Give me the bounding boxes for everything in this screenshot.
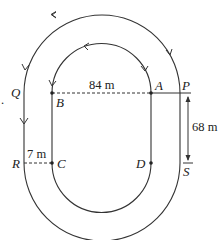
outer-track <box>24 15 180 240</box>
track-diagram: Q B A P R C D S 84 m 68 m 7 m . <box>0 0 224 240</box>
label-p: P <box>181 78 190 93</box>
arrow-up-icon <box>186 96 191 102</box>
point-d <box>149 161 153 165</box>
label-c: C <box>57 156 66 171</box>
label-b: B <box>56 95 64 110</box>
point-b <box>50 91 54 95</box>
arrow-icon <box>84 43 89 50</box>
label-q: Q <box>11 85 21 100</box>
label-s: S <box>183 164 190 179</box>
label-d: D <box>135 156 146 171</box>
arrow-down-icon <box>186 155 191 161</box>
measure-84m: 84 m <box>89 78 115 92</box>
measure-68m: 68 m <box>192 120 218 134</box>
measure-7m: 7 m <box>27 147 46 161</box>
label-r: R <box>11 156 20 171</box>
label-a: A <box>154 78 163 93</box>
point-a <box>149 91 153 95</box>
point-c <box>50 161 54 165</box>
inner-track <box>52 44 151 213</box>
margin-mark: . <box>1 93 4 107</box>
